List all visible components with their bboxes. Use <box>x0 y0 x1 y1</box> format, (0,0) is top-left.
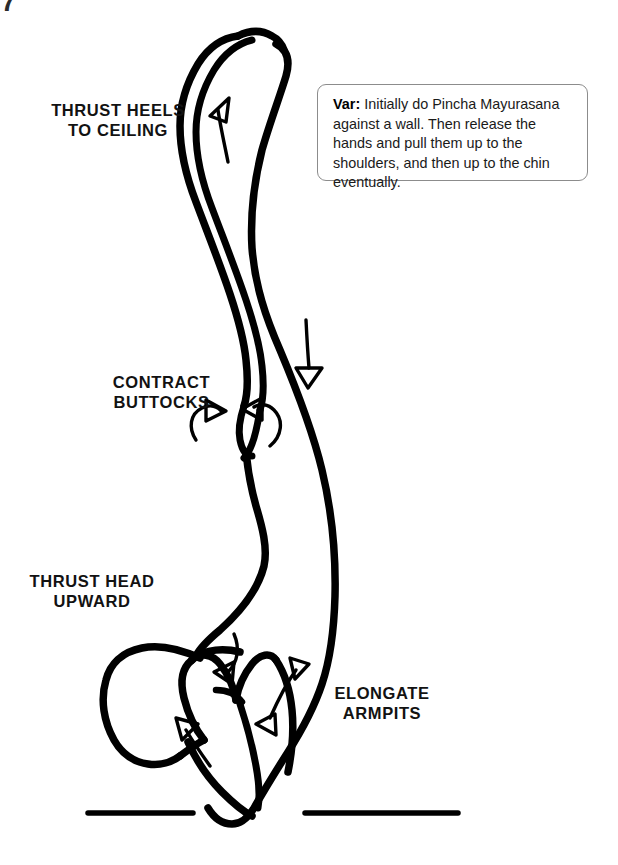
cue-label-elongate-armpits: ELONGATE ARMPITS <box>302 684 462 724</box>
shoulder-back-outline <box>240 704 259 808</box>
elbow-floor-left-outline <box>188 742 252 816</box>
arrow-leg-down <box>296 320 322 388</box>
cue-label-thrust-heels: THRUST HEELS TO CEILING <box>38 101 198 141</box>
torso-front-outline <box>196 452 265 656</box>
forearm-right-outline <box>236 655 276 700</box>
cue-label-thrust-head: THRUST HEAD UPWARD <box>12 572 172 612</box>
variation-note-prefix: Var: <box>333 96 360 112</box>
arrow-heels-up <box>210 98 229 162</box>
illustration-page: 7 <box>0 0 618 865</box>
variation-note-box: Var: Initially do Pincha Mayurasana agai… <box>317 84 588 181</box>
neck-outline <box>196 650 240 656</box>
cue-label-contract-buttocks: CONTRACT BUTTOCKS <box>84 373 239 413</box>
variation-note-text: Var: Initially do Pincha Mayurasana agai… <box>333 95 574 193</box>
variation-note-body: Initially do Pincha Mayurasana against a… <box>333 96 559 190</box>
